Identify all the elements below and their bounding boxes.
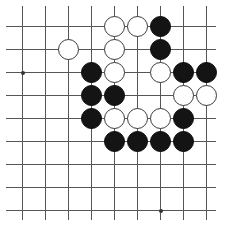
go-board-diagram bbox=[0, 0, 227, 234]
black-stone-h4[interactable] bbox=[173, 131, 194, 152]
black-stone-j7[interactable] bbox=[196, 62, 217, 83]
grid-line-vertical bbox=[22, 6, 23, 220]
white-stone-j6[interactable] bbox=[196, 85, 217, 106]
black-stone-d6[interactable] bbox=[81, 85, 102, 106]
black-stone-g9[interactable] bbox=[150, 16, 171, 37]
black-stone-g4[interactable] bbox=[150, 131, 171, 152]
white-stone-f9[interactable] bbox=[127, 16, 148, 37]
black-stone-g8[interactable] bbox=[150, 39, 171, 60]
goban-grid[interactable] bbox=[0, 0, 227, 234]
white-stone-g7[interactable] bbox=[150, 62, 171, 83]
white-stone-e9[interactable] bbox=[104, 16, 125, 37]
grid-line-horizontal bbox=[6, 210, 216, 211]
hoshi-star-point bbox=[159, 209, 163, 213]
black-stone-e6[interactable] bbox=[104, 85, 125, 106]
white-stone-e7[interactable] bbox=[104, 62, 125, 83]
grid-line-vertical bbox=[206, 6, 207, 220]
grid-line-horizontal bbox=[6, 187, 216, 188]
black-stone-d7[interactable] bbox=[81, 62, 102, 83]
white-stone-h6[interactable] bbox=[173, 85, 194, 106]
black-stone-h5[interactable] bbox=[173, 108, 194, 129]
white-stone-e8[interactable] bbox=[104, 39, 125, 60]
grid-line-horizontal bbox=[6, 164, 216, 165]
grid-line-vertical bbox=[45, 6, 46, 220]
white-stone-e5[interactable] bbox=[104, 108, 125, 129]
white-stone-g5[interactable] bbox=[150, 108, 171, 129]
black-stone-e4[interactable] bbox=[104, 131, 125, 152]
black-stone-f4[interactable] bbox=[127, 131, 148, 152]
white-stone-c8[interactable] bbox=[58, 39, 79, 60]
black-stone-h7[interactable] bbox=[173, 62, 194, 83]
white-stone-f5[interactable] bbox=[127, 108, 148, 129]
black-stone-d5[interactable] bbox=[81, 108, 102, 129]
hoshi-star-point bbox=[21, 71, 25, 75]
